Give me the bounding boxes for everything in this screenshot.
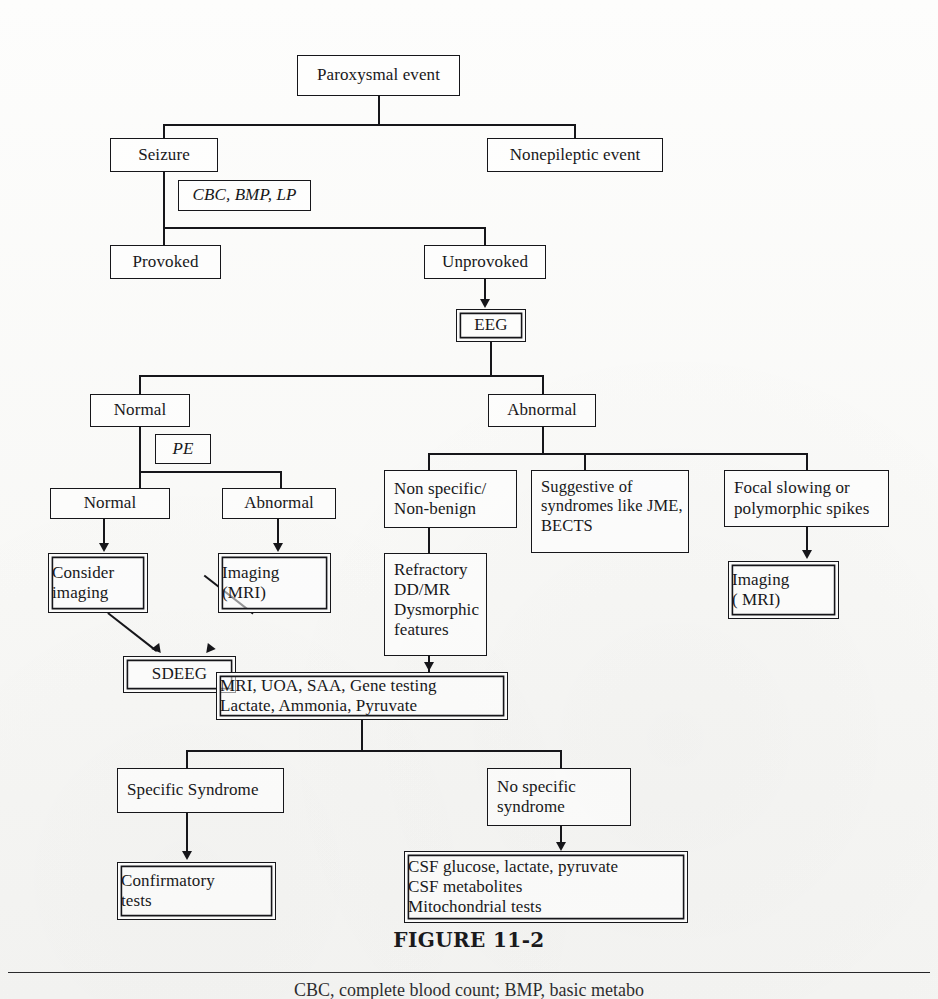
arrowhead-imaging-mri-right xyxy=(802,550,812,559)
edge-specific-confirmatory xyxy=(186,813,188,855)
edge-to-no-specific-syndrome xyxy=(560,750,562,769)
edge-to-nonepileptic xyxy=(574,124,576,139)
edge-seizure-split xyxy=(163,227,485,229)
arrowhead-imaging-mri-left xyxy=(273,543,283,552)
edge-consider-sdeeg xyxy=(108,612,158,651)
node-paroxysmal-event[interactable]: Paroxysmal event xyxy=(297,55,460,96)
edge-workup-stem xyxy=(361,720,363,751)
node-focal-slowing[interactable]: Focal slowing or polymorphic spikes xyxy=(724,470,889,527)
arrowhead-confirmatory-tests xyxy=(182,851,192,860)
edge-to-provoked xyxy=(163,227,165,246)
edge-workup-split xyxy=(186,750,561,752)
edge-to-focal-slowing xyxy=(806,453,808,471)
edge-eeg-stem xyxy=(490,342,492,376)
arrowhead-eeg xyxy=(480,299,490,308)
node-pe-normal[interactable]: Normal xyxy=(50,488,170,519)
node-consider-imaging[interactable]: Consider imaging xyxy=(48,553,148,613)
node-provoked[interactable]: Provoked xyxy=(110,245,221,279)
edge-unprovoked-eeg xyxy=(484,279,486,301)
node-eeg[interactable]: EEG xyxy=(456,309,526,342)
edge-to-suggestive xyxy=(584,453,586,471)
edge-to-non-specific xyxy=(428,453,430,471)
edge-to-seizure xyxy=(163,124,165,139)
figure-footnote: CBC, complete blood count; BMP, basic me… xyxy=(0,980,938,999)
edge-to-pe-normal xyxy=(139,471,141,489)
edge-pe-normal-consider xyxy=(103,519,105,545)
node-refractory[interactable]: Refractory DD/MR Dysmorphic features xyxy=(384,553,487,656)
figure-caption: FIGURE 11-2 xyxy=(0,928,938,952)
edge-pe-split xyxy=(139,471,281,473)
figure-page: Paroxysmal event Seizure Nonepileptic ev… xyxy=(0,0,938,999)
horizontal-rule xyxy=(8,972,930,973)
node-eeg-abnormal[interactable]: Abnormal xyxy=(488,394,596,427)
edge-eeg-normal-stem xyxy=(139,427,141,472)
edge-eeg-split xyxy=(139,375,543,377)
node-non-specific[interactable]: Non specific/ Non-benign xyxy=(384,470,517,528)
edge-to-unprovoked xyxy=(484,227,486,246)
edge-paroxysmal-stem xyxy=(378,96,380,125)
node-no-specific-syndrome[interactable]: No specific syndrome xyxy=(487,768,631,826)
edge-to-specific-syndrome xyxy=(186,750,188,769)
arrowhead-consider-imaging xyxy=(99,543,109,552)
node-confirmatory-tests[interactable]: Confirmatory tests xyxy=(117,862,276,920)
node-seizure[interactable]: Seizure xyxy=(110,138,218,172)
node-unprovoked[interactable]: Unprovoked xyxy=(424,245,546,279)
arrowhead-csf-tests xyxy=(556,842,566,851)
node-cbc-bmp-lp[interactable]: CBC, BMP, LP xyxy=(178,180,311,211)
edge-to-pe-abnormal xyxy=(280,471,282,489)
edge-paroxysmal-split xyxy=(163,124,575,126)
node-pe-abnormal[interactable]: Abnormal xyxy=(222,488,336,519)
node-pe[interactable]: PE xyxy=(155,434,211,464)
node-eeg-normal[interactable]: Normal xyxy=(90,394,190,427)
node-suggestive-syndromes[interactable]: Suggestive of syndromes like JME, BECTS xyxy=(531,470,689,553)
edge-nonspecific-refractory xyxy=(428,528,430,554)
arrowhead-sdeeg-left xyxy=(151,643,164,656)
edge-pe-abnormal-imaging xyxy=(277,519,279,545)
edge-eeg-abnormal-stem xyxy=(542,427,544,454)
node-csf-tests[interactable]: CSF glucose, lactate, pyruvate CSF metab… xyxy=(404,851,688,923)
node-nonepileptic-event[interactable]: Nonepileptic event xyxy=(487,138,663,172)
edge-to-eeg-abnormal xyxy=(542,375,544,395)
arrowhead-metabolic-workup xyxy=(424,662,434,671)
node-imaging-mri-right[interactable]: Imaging ( MRI) xyxy=(728,561,839,619)
edge-to-eeg-normal xyxy=(139,375,141,395)
edge-seizure-stem xyxy=(163,172,165,228)
node-imaging-mri-left[interactable]: Imaging (MRI) xyxy=(218,553,331,613)
edge-abnormal-split xyxy=(428,453,807,455)
node-metabolic-workup[interactable]: MRI, UOA, SAA, Gene testing Lactate, Amm… xyxy=(216,672,508,720)
node-specific-syndrome[interactable]: Specific Syndrome xyxy=(117,768,284,813)
arrowhead-sdeeg-right xyxy=(202,643,215,656)
